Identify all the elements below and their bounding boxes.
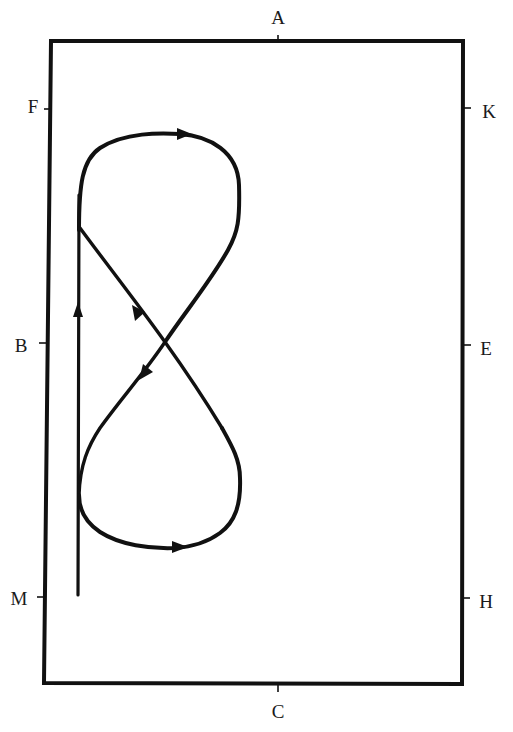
marker-label-k: K	[482, 102, 496, 121]
marker-label-e: E	[480, 339, 492, 358]
marker-label-a: A	[271, 8, 285, 27]
arrow-right-bottom-icon	[172, 541, 188, 553]
marker-ticks	[37, 35, 471, 692]
diagonal-to-lower-loop	[79, 342, 165, 495]
lower-loop	[79, 428, 240, 548]
ride-path	[78, 134, 240, 595]
upper-loop	[79, 134, 239, 342]
quarter-line	[78, 195, 79, 595]
direction-arrows	[73, 128, 192, 553]
marker-label-b: B	[15, 336, 28, 355]
arrow-right-top-icon	[177, 128, 192, 140]
arena-figure: A K E H C M B F	[0, 0, 513, 732]
diagonal-descending	[80, 228, 222, 428]
marker-label-m: M	[11, 589, 28, 608]
marker-label-f: F	[28, 97, 39, 116]
marker-label-c: C	[272, 702, 285, 721]
arena-diagram	[0, 0, 513, 732]
arena-boundary	[44, 41, 463, 684]
marker-label-h: H	[479, 592, 493, 611]
arrow-up-icon	[73, 302, 83, 317]
